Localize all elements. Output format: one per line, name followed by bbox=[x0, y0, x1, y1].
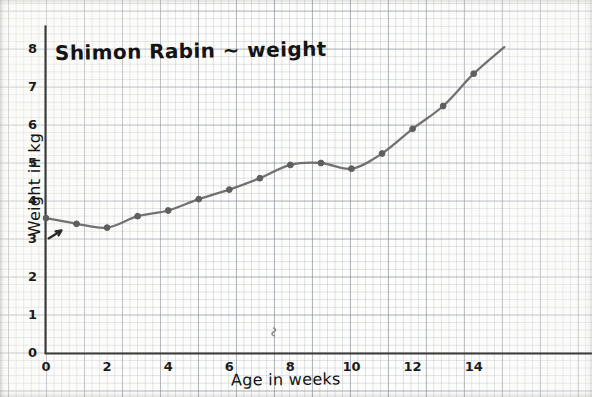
axis-lines bbox=[46, 26, 592, 353]
weight-series bbox=[46, 47, 504, 228]
pencil-annotations bbox=[49, 230, 276, 336]
data-point-markers bbox=[43, 71, 477, 231]
line-chart-plot bbox=[0, 0, 592, 397]
